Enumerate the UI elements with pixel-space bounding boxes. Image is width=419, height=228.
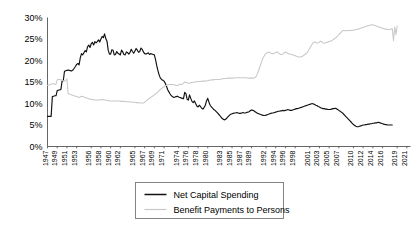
x-tick-label: 1949 [51,150,58,166]
x-tick-label: 1969 [148,150,155,166]
x-tick-label: 1958 [95,150,102,166]
x-tick-label: 2005 [323,150,330,166]
y-tick-label: 10% [24,99,42,109]
y-tick-label: 15% [24,77,42,87]
x-tick-label: 2021 [401,150,408,166]
y-tick-label: 0% [29,142,42,152]
x-tick-label: 1989 [245,150,252,166]
x-tick-label: 1983 [216,150,223,166]
x-tick-label: 1976 [182,150,189,166]
plot-series [48,25,398,127]
series-line-benefit-payments [48,25,398,103]
x-tick-label: 1951 [61,150,68,166]
x-tick-label: 1985 [226,150,233,166]
x-tick-label: 2016 [377,150,384,166]
x-tick-label: 1962 [114,150,121,166]
x-tick-label: 1974 [173,150,180,166]
x-tick-label: 2014 [367,150,374,166]
x-tick-label: 1956 [85,150,92,166]
x-tick-label: 2007 [333,150,340,166]
x-tick-label: 2010 [347,150,354,166]
y-tick-label: 30% [24,13,42,23]
x-tick-label: 2019 [391,150,398,166]
x-tick-label: 1967 [139,150,146,166]
chart-legend: Net Capital SpendingBenefit Payments to … [136,183,291,219]
x-tick-label: 1960 [105,150,112,166]
x-tick-label: 1965 [129,150,136,166]
y-tick-label: 5% [29,120,42,130]
x-tick-label: 1987 [236,150,243,166]
x-tick-label: 2003 [313,150,320,166]
x-tick-label: 1971 [158,150,165,166]
x-tick-label: 2001 [304,150,311,166]
x-tick-label: 1978 [192,150,199,166]
line-chart: 0%5%10%15%20%25%30% 19471949195119531956… [0,0,419,228]
y-tick-label: 25% [24,34,42,44]
chart-container: 0%5%10%15%20%25%30% 19471949195119531956… [0,0,419,228]
legend-label: Net Capital Spending [174,190,259,200]
x-tick-label: 1953 [71,150,78,166]
x-tick-label: 1947 [42,150,49,166]
x-axis-tick-labels: 1947194919511953195619581960196219651967… [42,147,408,167]
x-tick-label: 1980 [202,150,209,166]
x-tick-label: 1992 [260,150,267,166]
x-tick-label: 1996 [279,150,286,166]
x-tick-label: 1998 [289,150,296,166]
x-tick-label: 2012 [357,150,364,166]
series-line-net-capital-spending [48,34,393,127]
legend-label: Benefit Payments to Persons [174,205,291,215]
x-tick-label: 1994 [270,150,277,166]
y-tick-label: 20% [24,56,42,66]
y-axis-tick-labels: 0%5%10%15%20%25%30% [24,13,42,152]
